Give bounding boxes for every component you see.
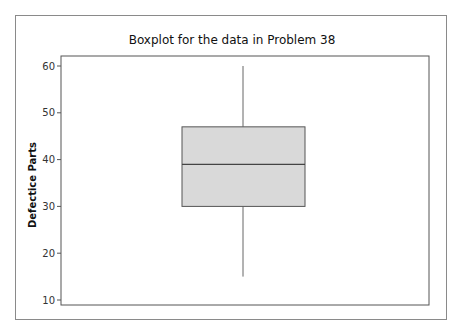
y-tick-label: 10 (42, 295, 55, 306)
y-tick-label: 30 (42, 201, 55, 212)
y-tick-label: 60 (42, 61, 55, 72)
y-tick-label: 20 (42, 248, 55, 259)
y-tick-label: 50 (42, 107, 55, 118)
y-tick-label: 40 (42, 154, 55, 165)
boxplot-plot-area: 102030405060 (0, 0, 464, 334)
iqr-box (182, 127, 305, 207)
